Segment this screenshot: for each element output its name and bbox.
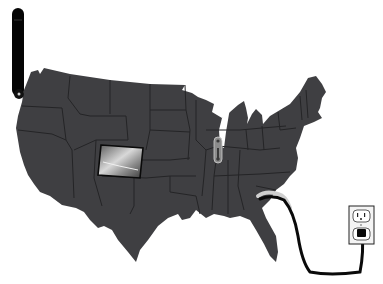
illinois-thermometer xyxy=(214,137,222,163)
us-map-illustration xyxy=(0,0,383,284)
colorado-photo-inset xyxy=(98,145,143,178)
us-map xyxy=(16,68,326,262)
battery-level-bar xyxy=(12,8,24,99)
wall-outlet xyxy=(349,206,374,244)
